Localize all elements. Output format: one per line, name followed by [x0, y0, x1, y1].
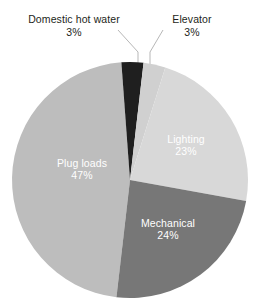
pie-chart-canvas: Lighting 23% Mechanical 24% Plug loads 4… — [0, 0, 260, 303]
slice-value-lighting: 23% — [175, 145, 196, 157]
callout-domestic-hot-water-value: 3% — [6, 26, 142, 39]
pie-slices — [12, 62, 248, 298]
callout-elevator: Elevator 3% — [150, 13, 234, 39]
slice-label-plug-loads: Plug loads — [57, 157, 107, 169]
slice-value-plug-loads: 47% — [71, 169, 92, 181]
slice-label-mechanical: Mechanical — [141, 217, 195, 229]
slice-label-lighting: Lighting — [167, 133, 205, 145]
pie-slice-mechanical[interactable] — [116, 180, 246, 298]
slice-value-mechanical: 24% — [157, 229, 178, 241]
callout-elevator-name: Elevator — [150, 13, 234, 26]
callout-domestic-hot-water: Domestic hot water 3% — [6, 13, 142, 39]
callout-elevator-value: 3% — [150, 26, 234, 39]
pie-chart-figure: Lighting 23% Mechanical 24% Plug loads 4… — [0, 0, 260, 303]
callout-domestic-hot-water-name: Domestic hot water — [6, 13, 142, 26]
